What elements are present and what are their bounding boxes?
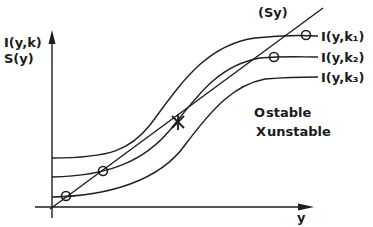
y-axis-label-savings: S(y) bbox=[4, 51, 34, 66]
legend-stable-label: stable bbox=[266, 105, 311, 120]
x-axis bbox=[35, 204, 314, 211]
legend-unstable-label: unstable bbox=[267, 124, 331, 139]
legend: O stable X unstable bbox=[254, 105, 331, 139]
curve-label-k3: I(y,k₃) bbox=[321, 70, 364, 85]
x-axis-label: y bbox=[297, 210, 306, 225]
equilibrium-diagram: I(y,k) S(y) y (Sy) I(y,k₁) I(y,k₂) I(y,k… bbox=[0, 0, 373, 227]
legend-unstable-symbol: X bbox=[256, 124, 266, 139]
curve-label-k2: I(y,k₂) bbox=[321, 50, 364, 65]
curve-label-k1: I(y,k₁) bbox=[321, 29, 364, 44]
y-axis bbox=[49, 30, 56, 218]
y-axis-label-investment: I(y,k) bbox=[4, 35, 42, 50]
y-axis-arrow-icon bbox=[49, 30, 56, 44]
savings-line-label: (Sy) bbox=[258, 5, 288, 20]
legend-stable-symbol: O bbox=[254, 105, 265, 120]
unstable-point-icon bbox=[172, 114, 184, 130]
